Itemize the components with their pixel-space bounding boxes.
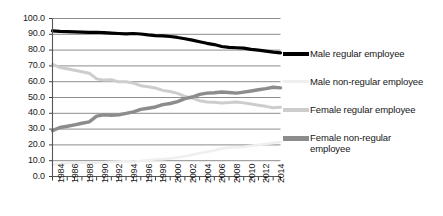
y-axis-tick-label: 100.0 [5, 14, 45, 23]
legend-label: Female regular employee [310, 104, 415, 115]
y-axis-tick-label: 10.0 [5, 156, 45, 165]
x-axis-tick-label: 1992 [115, 163, 124, 182]
x-axis-tick-label: 1984 [57, 163, 66, 182]
legend-item: Female non-regular employee [283, 132, 395, 154]
legend-swatch-icon [283, 52, 309, 56]
legend-item: Female regular employee [283, 104, 415, 115]
y-axis-tick-label: 70.0 [5, 61, 45, 70]
y-axis-tick-label: 0.0 [5, 172, 45, 181]
y-axis-tick-label: 90.0 [5, 29, 45, 38]
y-axis-tick-label: 60.0 [5, 77, 45, 86]
y-axis-tick-label: 80.0 [5, 45, 45, 54]
x-axis-tick-label: 2008 [233, 163, 242, 182]
legend-label: Female non-regular employee [310, 132, 395, 154]
x-axis-tick-label: 2010 [248, 163, 257, 182]
x-axis-tick-label: 2002 [189, 163, 198, 182]
legend-swatch-icon [283, 136, 309, 141]
legend-item: Male regular employee [283, 48, 405, 59]
x-axis-tick-label: 1988 [86, 163, 95, 182]
legend-label: Male regular employee [310, 48, 405, 59]
legend-swatch-icon [283, 108, 309, 112]
y-axis-tick-label: 20.0 [5, 140, 45, 149]
legend-label: Male non-regular employee [310, 76, 423, 87]
x-axis-tick-label: 2004 [204, 163, 213, 182]
y-axis-tick-label: 40.0 [5, 108, 45, 117]
x-axis-tick-label: 2014 [277, 163, 286, 182]
x-axis-tick-label: 2000 [174, 163, 183, 182]
x-axis-tick-label: 1998 [159, 163, 168, 182]
series-line [53, 87, 281, 130]
gridlines [53, 19, 281, 177]
chart-container: 100.090.080.070.060.050.040.030.020.010.… [0, 0, 443, 216]
series-line [53, 64, 281, 107]
x-axis-tick-label: 1994 [130, 163, 139, 182]
x-axis-tick-label: 2012 [262, 163, 271, 182]
legend-swatch-icon [283, 80, 309, 83]
x-axis-tick-label: 2006 [218, 163, 227, 182]
x-axis-tick-label: 1990 [101, 163, 110, 182]
x-axis-tick-label: 1986 [71, 163, 80, 182]
legend-item: Male non-regular employee [283, 76, 423, 87]
y-axis-tick-label: 50.0 [5, 93, 45, 102]
y-axis-tick-label: 30.0 [5, 124, 45, 133]
x-axis-tick-label: 1996 [145, 163, 154, 182]
